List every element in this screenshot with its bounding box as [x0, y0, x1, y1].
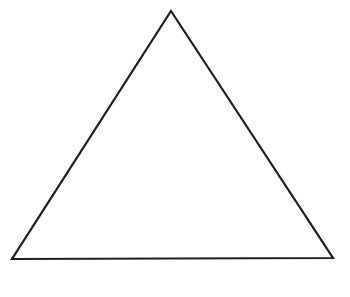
triangle-figure — [0, 0, 350, 297]
diagram-canvas — [0, 0, 350, 297]
triangle-shape — [12, 11, 333, 259]
